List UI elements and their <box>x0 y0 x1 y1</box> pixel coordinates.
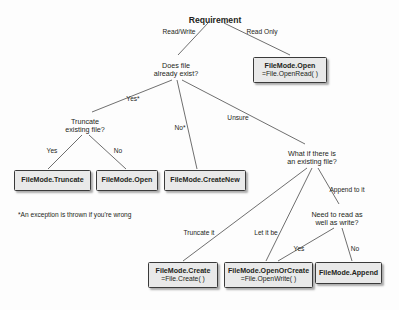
edge-label-truncate-it: Truncate it <box>184 229 215 237</box>
terminal-title: FileMode.CreateNew <box>170 176 239 184</box>
edge-what-if-to-openorcreate <box>266 168 312 261</box>
terminal-box-filemode-open: FileMode.Open <box>96 170 158 191</box>
edge-does-file-exist-to-what-if <box>182 80 305 144</box>
terminal-title: FileMode.Create <box>156 267 211 275</box>
terminal-title: FileMode.Open <box>102 176 153 184</box>
edge-label-truncate-no: No <box>114 147 122 155</box>
node-what-if-existing-file: What if there is an existing file? <box>287 150 337 167</box>
edge-label-read-write-yes: Yes <box>294 245 305 253</box>
edge-need-to-read-to-openorcreate <box>278 228 334 261</box>
terminal-subtitle: =File.OpenWrite( ) <box>241 275 297 283</box>
terminal-box-filemode-append: FileMode.Append <box>315 262 382 284</box>
terminal-title: FileMode.Append <box>319 269 378 277</box>
node-does-file-exist: Does file already exist? <box>154 62 198 79</box>
terminal-title: FileMode.Open <box>265 62 316 70</box>
terminal-box-filemode-createnew: FileMode.CreateNew <box>164 170 246 191</box>
edge-label-unsure: Unsure <box>227 114 248 122</box>
terminal-title: FileMode.OpenOrCreate <box>228 267 309 275</box>
edge-label-let-it-be: Let it be <box>254 229 277 237</box>
edge-label-read-write-no: No <box>351 245 359 253</box>
edge-label-no-star: No* <box>175 124 186 132</box>
terminal-subtitle: =File.Create( ) <box>161 275 205 283</box>
footnote-exception-note: *An exception is thrown if you're wrong <box>18 211 131 219</box>
terminal-box-filemode-open-readonly: FileMode.Open=File.OpenRead( ) <box>253 57 327 83</box>
edge-label-append-to-it: Append to it <box>329 186 364 194</box>
node-need-to-read-as-well-as-write: Need to read as well as write? <box>311 211 362 228</box>
terminal-subtitle: =File.OpenRead( ) <box>262 70 318 78</box>
edge-label-read-write: Read/Write <box>163 28 196 36</box>
terminal-box-filemode-create: FileMode.Create=File.Create( ) <box>148 262 218 288</box>
node-root: Requirement <box>189 16 242 24</box>
edge-label-truncate-yes: Yes <box>47 147 58 155</box>
terminal-title: FileMode.Truncate <box>21 176 83 184</box>
edge-label-read-only: Read Only <box>246 28 277 36</box>
terminal-box-filemode-openorcreate: FileMode.OpenOrCreate=File.OpenWrite( ) <box>224 262 313 288</box>
edge-label-yes-star: Yes* <box>126 95 139 103</box>
terminal-box-filemode-truncate: FileMode.Truncate <box>14 170 91 191</box>
decision-tree-diagram: Requirement Does file already exist? Tru… <box>0 0 399 310</box>
node-truncate-existing-file: Truncate existing file? <box>65 118 105 135</box>
